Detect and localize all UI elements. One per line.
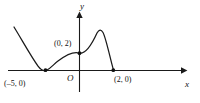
left-root-label: (–5, 0) — [4, 80, 25, 88]
origin-label: O — [67, 74, 74, 83]
graph-figure: y x O (–5, 0) (0, 2) (2, 0) — [0, 0, 200, 103]
plot-canvas — [0, 0, 200, 103]
point-marker-y-intercept — [78, 51, 82, 55]
point-marker-right-root — [111, 68, 115, 72]
right-root-label: (2, 0) — [114, 76, 131, 84]
point-marker-left-root — [44, 68, 48, 72]
x-axis-label: x — [185, 80, 189, 89]
y-axis-label: y — [80, 2, 84, 11]
curve-path — [14, 27, 114, 71]
y-intercept-label: (0, 2) — [54, 40, 71, 48]
